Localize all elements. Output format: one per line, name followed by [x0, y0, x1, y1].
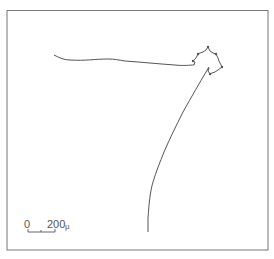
track-descending-segment	[148, 67, 209, 232]
track-horizontal-segment	[54, 55, 195, 65]
scale-start-label: 0	[24, 219, 30, 230]
scale-unit-label: μ	[65, 223, 70, 231]
trajectory-figure	[0, 0, 274, 259]
scale-end-label: 200	[47, 219, 65, 230]
figure-frame	[7, 11, 268, 251]
